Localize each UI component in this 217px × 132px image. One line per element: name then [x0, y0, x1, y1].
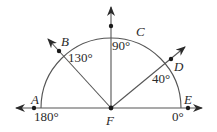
angle-label-180: 180°	[34, 109, 59, 124]
angle-label-90: 90°	[112, 38, 130, 53]
label-D: D	[173, 59, 184, 74]
label-C: C	[136, 24, 145, 39]
angle-label-0: 0°	[172, 109, 184, 124]
label-A: A	[30, 92, 39, 107]
point-B	[57, 49, 61, 53]
point-D	[169, 57, 173, 61]
label-F: F	[105, 113, 115, 128]
angle-label-130: 130°	[68, 50, 93, 65]
protractor-diagram: A B C D E F 180° 130° 90° 40° 0°	[0, 0, 217, 132]
point-F	[109, 106, 114, 111]
angle-label-40: 40°	[152, 71, 170, 86]
label-B: B	[61, 34, 69, 49]
point-vertical	[109, 24, 113, 28]
label-E: E	[183, 92, 192, 107]
